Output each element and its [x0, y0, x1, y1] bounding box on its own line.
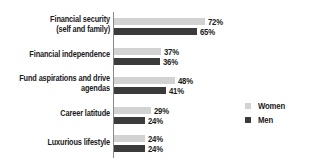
category-label: Financial independence: [0, 50, 110, 60]
bar-value-men: 65%: [200, 27, 215, 37]
legend-label-men: Men: [258, 115, 273, 125]
bar-women: [114, 48, 161, 55]
legend-swatch-women-icon: [245, 103, 251, 109]
bar-women: [114, 77, 175, 84]
bar-men: [114, 58, 160, 65]
bar-value-women: 72%: [208, 17, 223, 27]
category-label: Fund aspirations and drive agendas: [0, 74, 110, 93]
category-group: Luxurious lifestyle 24% 24%: [0, 132, 310, 158]
bar-value-women: 29%: [154, 106, 169, 116]
bar-men: [114, 28, 197, 35]
bar-men: [114, 87, 166, 94]
bar-value-men: 24%: [148, 116, 163, 126]
bar-value-women: 37%: [164, 47, 179, 57]
bar-value-men: 36%: [163, 57, 178, 67]
bar-chart: Financial security (self and family) 72%…: [0, 0, 310, 164]
bar-women: [114, 18, 205, 25]
bar-men: [114, 117, 145, 124]
bar-women: [114, 135, 145, 142]
bar-value-women: 24%: [148, 134, 163, 144]
category-group: Financial security (self and family) 72%…: [0, 14, 310, 40]
category-label: Financial security (self and family): [0, 15, 110, 34]
category-label: Luxurious lifestyle: [0, 138, 110, 148]
category-group: Financial independence 37% 36%: [0, 44, 310, 70]
legend-label-women: Women: [258, 101, 285, 111]
category-label: Career latitude: [0, 109, 110, 119]
legend-swatch-men-icon: [245, 117, 251, 123]
category-group: Fund aspirations and drive agendas 48% 4…: [0, 73, 310, 99]
bar-value-women: 48%: [178, 76, 193, 86]
plot-area: Financial security (self and family) 72%…: [0, 0, 310, 164]
bar-women: [114, 107, 151, 114]
bar-men: [114, 145, 145, 152]
bar-value-men: 41%: [169, 86, 184, 96]
bar-value-men: 24%: [148, 144, 163, 154]
